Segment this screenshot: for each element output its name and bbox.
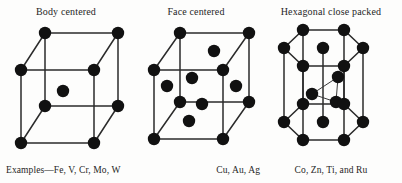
atom-corner xyxy=(88,137,100,149)
face-centered-cubic-diagram xyxy=(132,22,260,150)
hexagonal-close-packed-diagram xyxy=(260,22,402,152)
bcc-edge-bl xyxy=(21,106,45,143)
atom-face-center-left xyxy=(161,80,173,92)
atom-corner xyxy=(148,64,160,76)
atom-corner xyxy=(217,133,229,145)
atom-face-center-back xyxy=(186,72,198,84)
atom-interior-mid xyxy=(306,88,318,100)
panel-caption-hexagonal-close-packed: Co, Zn, Ti, and Ru xyxy=(260,164,402,176)
atom-corner-top xyxy=(357,42,369,54)
atom-corner-bottom xyxy=(297,134,309,146)
atom-corner-top xyxy=(278,42,290,54)
atom-corner-bottom xyxy=(297,98,309,110)
atom-body-center xyxy=(57,85,69,97)
body-centered-cubic-diagram xyxy=(0,22,132,150)
atom-interior-mid xyxy=(332,71,344,83)
bcc-edge-tl xyxy=(21,33,45,70)
bcc-atoms xyxy=(15,27,124,149)
panel-body-centered: Body centered xyxy=(0,0,132,183)
atom-corner-bottom xyxy=(278,116,290,128)
atom-corner xyxy=(148,133,160,145)
fcc-edge-tr xyxy=(223,33,249,70)
fcc-edge-br xyxy=(223,102,249,139)
atom-face-center-bottom xyxy=(183,115,195,127)
fcc-back-face xyxy=(180,33,249,102)
atom-corner-bottom xyxy=(338,134,350,146)
atom-corner xyxy=(39,100,51,112)
atom-corner xyxy=(243,27,255,39)
atom-corner xyxy=(15,64,27,76)
atom-face-center-right xyxy=(230,80,242,92)
bcc-edge-tr xyxy=(94,33,118,70)
fcc-edge-tl xyxy=(154,33,180,70)
panel-face-centered: Face centered xyxy=(132,0,260,183)
atom-corner-top xyxy=(338,24,350,36)
panel-title-face-centered: Face centered xyxy=(132,6,260,18)
atom-face-center-bottom xyxy=(317,116,329,128)
atom-corner xyxy=(88,64,100,76)
panel-caption-face-centered: Cu, Au, Ag xyxy=(132,164,266,176)
atom-corner-top xyxy=(297,24,309,36)
crystal-structures-figure: Body centered xyxy=(0,0,402,183)
fcc-atoms xyxy=(148,27,255,145)
atom-corner xyxy=(174,96,186,108)
atom-corner xyxy=(174,27,186,39)
panel-title-body-centered: Body centered xyxy=(0,6,132,18)
fcc-edge-bl xyxy=(154,102,180,139)
panel-title-hexagonal-close-packed: Hexagonal close packed xyxy=(260,6,402,18)
atom-corner xyxy=(15,137,27,149)
atom-corner-top xyxy=(338,60,350,72)
panel-hexagonal-close-packed: Hexagonal close packed xyxy=(260,0,402,183)
atom-face-center-top xyxy=(317,42,329,54)
atom-corner xyxy=(112,27,124,39)
atom-corner xyxy=(39,27,51,39)
atom-corner xyxy=(112,100,124,112)
atom-corner-bottom xyxy=(338,98,350,110)
bcc-edge-br xyxy=(94,106,118,143)
atom-face-center-front xyxy=(196,98,208,110)
atom-corner xyxy=(217,64,229,76)
atom-corner-bottom xyxy=(357,116,369,128)
atom-corner xyxy=(243,96,255,108)
panel-caption-body-centered: Examples—Fe, V, Cr, Mo, W xyxy=(0,164,138,176)
atom-corner-top xyxy=(297,60,309,72)
atom-face-center-top xyxy=(208,45,220,57)
